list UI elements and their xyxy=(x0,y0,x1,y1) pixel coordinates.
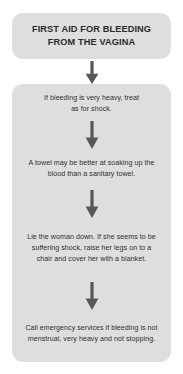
down-arrow-icon-1 xyxy=(84,61,100,84)
flowchart-title-text: FIRST AID FOR BLEEDING FROM THE VAGINA xyxy=(26,23,157,48)
down-arrow-icon-4 xyxy=(84,282,100,310)
flowchart-step-3: Lie the woman down. If she seems to be s… xyxy=(12,232,171,265)
down-arrow-icon-3 xyxy=(84,190,100,218)
down-arrow-icon-2 xyxy=(84,121,100,149)
flowchart-step-4: Call emergency services if bleeding is n… xyxy=(12,323,171,345)
first-aid-flowchart: FIRST AID FOR BLEEDING FROM THE VAGINA I… xyxy=(0,0,183,374)
flowchart-step-2: A towel may be better at soaking up the … xyxy=(12,158,171,180)
flowchart-steps-panel: If bleeding is very heavy, treat as for … xyxy=(12,84,171,362)
flowchart-title-box: FIRST AID FOR BLEEDING FROM THE VAGINA xyxy=(12,13,171,59)
flowchart-step-1: If bleeding is very heavy, treat as for … xyxy=(12,93,171,115)
